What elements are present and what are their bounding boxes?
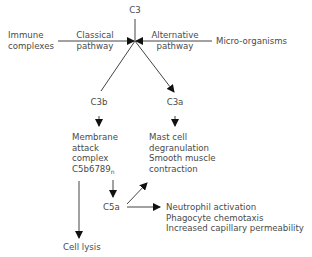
classical-line1: Classical xyxy=(72,30,118,41)
classical-pathway-label: Classical pathway xyxy=(72,30,118,51)
c3a-effect-line3: Smooth muscle xyxy=(149,153,216,164)
c3-label: C3 xyxy=(125,5,145,16)
c5a-label: C5a xyxy=(103,202,120,213)
c3a-label: C3a xyxy=(162,97,188,108)
mac-line1: Membrane xyxy=(72,132,118,143)
mac-formula: C5b6789 xyxy=(72,164,111,174)
membrane-attack-complex-label: Membrane attack complex C5b6789n xyxy=(72,132,118,177)
immune-line1: Immune xyxy=(8,30,54,41)
immune-complexes-label: Immune complexes xyxy=(8,30,54,51)
mac-subscript: n xyxy=(111,168,115,175)
mac-line2: attack xyxy=(72,143,118,154)
c5a-effects-label: Neutrophil activation Phagocyte chemotax… xyxy=(166,202,304,234)
immune-line2: complexes xyxy=(8,41,54,52)
c3b-label: C3b xyxy=(86,97,112,108)
c5a-mast-arrow xyxy=(127,183,147,204)
alternative-pathway-label: Alternative pathway xyxy=(150,30,200,51)
cell-lysis-label: Cell lysis xyxy=(63,242,101,253)
c5a-effect-line3: Increased capillary permeability xyxy=(166,223,304,234)
classical-line2: pathway xyxy=(72,41,118,52)
c3a-effect-line1: Mast cell xyxy=(149,132,216,143)
mast-cell-effects-label: Mast cell degranulation Smooth muscle co… xyxy=(149,132,216,174)
alternative-line1: Alternative xyxy=(150,30,200,41)
micro-organisms-label: Micro-organisms xyxy=(216,36,287,47)
c5a-effect-line1: Neutrophil activation xyxy=(166,202,304,213)
alternative-line2: pathway xyxy=(150,41,200,52)
mac-line4: C5b6789n xyxy=(72,164,118,178)
mac-line3: complex xyxy=(72,153,118,164)
c3a-effect-line4: contraction xyxy=(149,164,216,175)
c5a-effect-line2: Phagocyte chemotaxis xyxy=(166,213,304,224)
c3a-effect-line2: degranulation xyxy=(149,143,216,154)
